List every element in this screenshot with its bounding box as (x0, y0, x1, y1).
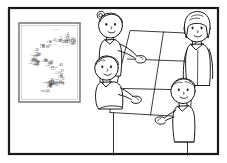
line-art-illustration: 1234567891011121314151617181920212223242… (0, 0, 227, 163)
poster-dot (69, 43, 70, 44)
poster-dot (48, 64, 49, 65)
figure2-head (95, 56, 119, 80)
figure3-eye-left (192, 27, 194, 30)
poster-number: 38 (37, 53, 41, 57)
poster-number: 21 (63, 40, 67, 44)
poster-dot (50, 66, 51, 67)
poster-dot (40, 44, 41, 45)
poster-dot (35, 55, 36, 56)
poster-dot (48, 63, 49, 64)
figure1-eye-left (105, 23, 107, 26)
poster-number: 63 (59, 63, 63, 67)
poster-dot (54, 73, 55, 74)
poster-dot (44, 90, 45, 91)
poster-dot (28, 63, 29, 64)
poster-dot (59, 36, 60, 37)
poster-dot (51, 69, 52, 70)
poster-number: 23 (58, 39, 62, 43)
poster-number: 81 (59, 80, 63, 84)
poster-number: 67 (61, 69, 65, 73)
poster-dot (58, 76, 59, 77)
figure1-hand (136, 56, 146, 63)
figure4-hand (155, 117, 165, 124)
poster-number: 97 (50, 84, 54, 88)
poster-dot (31, 55, 32, 56)
poster-dot (33, 56, 34, 57)
poster-dot (58, 65, 59, 66)
figure2-hand (131, 96, 141, 103)
poster-dot (31, 64, 32, 65)
poster-dot (40, 47, 41, 48)
figure2-torso (96, 82, 123, 109)
poster-dot (34, 50, 35, 51)
poster-dot (46, 65, 47, 66)
poster-dot (49, 67, 50, 68)
poster-dot (52, 40, 53, 41)
poster-dot (57, 71, 58, 72)
poster-number: 100 (45, 89, 50, 93)
poster-dot (65, 37, 66, 38)
dot-to-dot-number-poster: 1234567891011121314151617181920212223242… (19, 23, 80, 102)
figure3-eye-right (201, 27, 203, 30)
poster-dot (47, 42, 48, 43)
illustration-scene: 1234567891011121314151617181920212223242… (0, 0, 227, 163)
poster-number: 17 (70, 41, 74, 45)
poster-dot (59, 75, 60, 76)
poster-dot (47, 86, 48, 87)
poster-dot (43, 82, 44, 83)
poster-dot (32, 63, 33, 64)
figure4-eye-left (178, 88, 180, 91)
poster-dot (57, 82, 58, 83)
poster-dot (33, 64, 34, 65)
figure4-torso (173, 106, 195, 142)
poster-dot (48, 86, 49, 87)
poster-dot (35, 61, 36, 62)
figure2-eye-left (101, 65, 103, 68)
poster-dot (46, 83, 47, 84)
poster-dot (31, 59, 32, 60)
poster-dot (43, 61, 44, 62)
poster-dot (40, 90, 41, 91)
poster-dot (43, 60, 44, 61)
figure2-eye-right (110, 65, 112, 68)
poster-number: 31 (46, 45, 50, 49)
figure1-eye-right (114, 23, 116, 26)
poster-number: 32 (41, 45, 45, 49)
poster-dot (66, 37, 67, 38)
figure4-eye-right (187, 88, 189, 91)
poster-dot (53, 67, 54, 68)
poster-dot (55, 29, 56, 30)
